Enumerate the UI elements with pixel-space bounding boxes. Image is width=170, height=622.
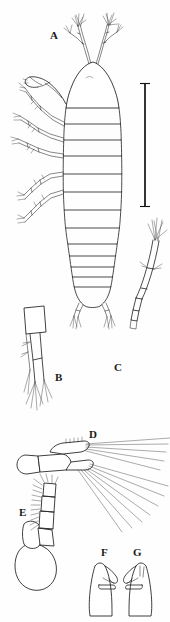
panel-label-g: G [133,547,142,558]
antenna-left [64,14,91,64]
maxilliped-a [23,77,66,104]
panel-label-c: C [114,362,122,373]
scale-bar [140,83,150,207]
figure-plate: A B C D E F G [0,0,170,622]
pereon-segments [63,108,122,228]
caudal-ramus-left [70,303,83,329]
panel-label-a: A [50,30,58,41]
pereopod-3 [11,137,63,158]
caudal-ramus-right [102,303,115,329]
d-setae-lower [78,464,168,532]
panel-label-d: D [89,429,97,440]
antenna-right [96,13,123,64]
cephalon [66,62,119,108]
e-carpus [38,528,54,546]
pleon-segments [66,228,120,308]
e-terminal [43,483,56,497]
plate-drawing [0,0,170,622]
panel-b-drawing [21,306,52,410]
pereopod-2 [13,113,64,142]
pereopod-4 [17,172,63,200]
panel-e-drawing [15,474,58,590]
panel-label-b: B [55,372,62,383]
d-basis [17,455,40,474]
panel-g-drawing [124,563,152,616]
panel-label-f: F [101,547,108,558]
f-body [89,563,112,616]
e-dactylus [41,496,55,512]
panel-label-e: E [19,507,26,518]
panel-a-drawing [11,13,123,329]
d-setae-upper [86,438,170,470]
g-body [129,563,152,616]
e-basis [15,544,56,590]
panel-c-drawing [130,218,167,329]
d-carpus [50,441,89,454]
b-basis [24,306,46,334]
e-propodus [39,511,54,529]
panel-f-drawing [89,563,117,616]
